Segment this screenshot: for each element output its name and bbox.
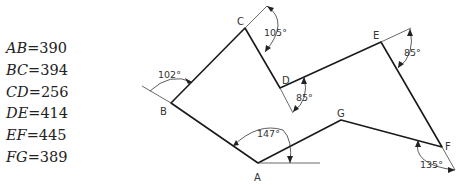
angle-label-d: 85° (296, 92, 313, 103)
polyline-diagram: A B C D E F G 147° 102° 105° 85° 85° 135… (0, 0, 461, 185)
vertex-label-g: G (337, 108, 345, 119)
angle-label-f: 135° (420, 159, 443, 170)
ext-line-e (381, 28, 411, 42)
ext-line-b (142, 86, 171, 103)
arrow-a1 (233, 140, 239, 146)
vertex-label-f: F (445, 141, 451, 152)
vertex-label-e: E (373, 30, 379, 41)
vertex-label-c: C (237, 16, 244, 27)
angle-label-e: 85° (404, 47, 421, 58)
angle-label-b: 102° (158, 69, 181, 80)
angle-label-c: 105° (264, 27, 287, 38)
vertex-label-a: A (254, 172, 261, 183)
arrow-d2 (293, 105, 299, 112)
arrow-a2 (287, 156, 293, 163)
vertex-label-b: B (160, 106, 167, 117)
ext-line-c (245, 6, 267, 28)
ext-line-d (280, 88, 293, 113)
arrow-c2 (265, 45, 271, 52)
arrow-e1 (407, 29, 413, 36)
angle-label-a: 147° (257, 128, 280, 139)
vertex-label-d: D (282, 75, 290, 86)
arrow-e2 (398, 61, 404, 68)
